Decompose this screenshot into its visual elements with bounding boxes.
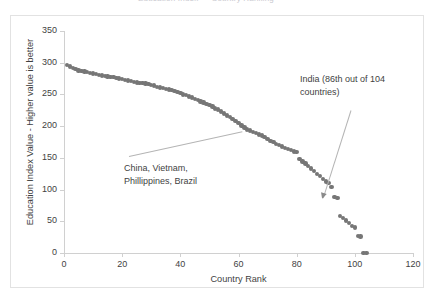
x-tick-mark: [413, 253, 414, 257]
data-point: [329, 185, 333, 189]
y-tick-mark: [60, 221, 64, 222]
x-axis-title: Country Rank: [64, 274, 413, 284]
chart-figure: Education Index — Country Ranking 050100…: [0, 0, 435, 303]
x-tick-mark: [239, 253, 240, 257]
x-tick-label: 80: [284, 259, 310, 269]
y-axis-title: Education Index Value - Higher value is …: [25, 27, 35, 237]
x-tick-label: 20: [109, 259, 135, 269]
y-tick-mark: [60, 31, 64, 32]
y-tick-mark: [60, 190, 64, 191]
plot-area: 050100150200250300350 020406080100120 Ed…: [11, 16, 425, 289]
y-tick-label: 0: [31, 247, 57, 257]
annotation-line: China, Vietnam,: [124, 162, 234, 175]
annotation-line: countries): [300, 86, 420, 99]
annotation-cluster-countries: China, Vietnam,Phillippines, Brazil: [124, 162, 234, 188]
y-tick-mark: [60, 63, 64, 64]
data-point: [294, 150, 298, 154]
y-tick-mark: [60, 94, 64, 95]
clipped-title-strip: Education Index — Country Ranking: [0, 0, 435, 9]
data-point: [364, 251, 368, 255]
x-tick-label: 120: [400, 259, 426, 269]
leader-line-india: [323, 110, 352, 198]
x-tick-mark: [297, 253, 298, 257]
data-point: [353, 225, 357, 229]
chart-frame: 050100150200250300350 020406080100120 Ed…: [10, 15, 424, 288]
x-tick-mark: [355, 253, 356, 257]
chart-title: Education Index — Country Ranking: [138, 0, 274, 3]
y-tick-mark: [60, 126, 64, 127]
annotation-line: India (86th out of 104: [300, 73, 420, 86]
x-tick-label: 40: [167, 259, 193, 269]
annotation-india: India (86th out of 104countries): [300, 73, 420, 99]
data-point: [335, 196, 339, 200]
leader-line-cluster: [129, 131, 243, 157]
x-tick-mark: [180, 253, 181, 257]
annotation-arrowhead: [319, 192, 327, 200]
x-tick-label: 60: [226, 259, 252, 269]
y-tick-mark: [60, 158, 64, 159]
x-tick-label: 100: [342, 259, 368, 269]
annotation-line: Phillippines, Brazil: [124, 175, 234, 188]
data-point: [358, 234, 362, 238]
x-tick-mark: [64, 253, 65, 257]
x-tick-label: 0: [51, 259, 77, 269]
x-tick-mark: [122, 253, 123, 257]
